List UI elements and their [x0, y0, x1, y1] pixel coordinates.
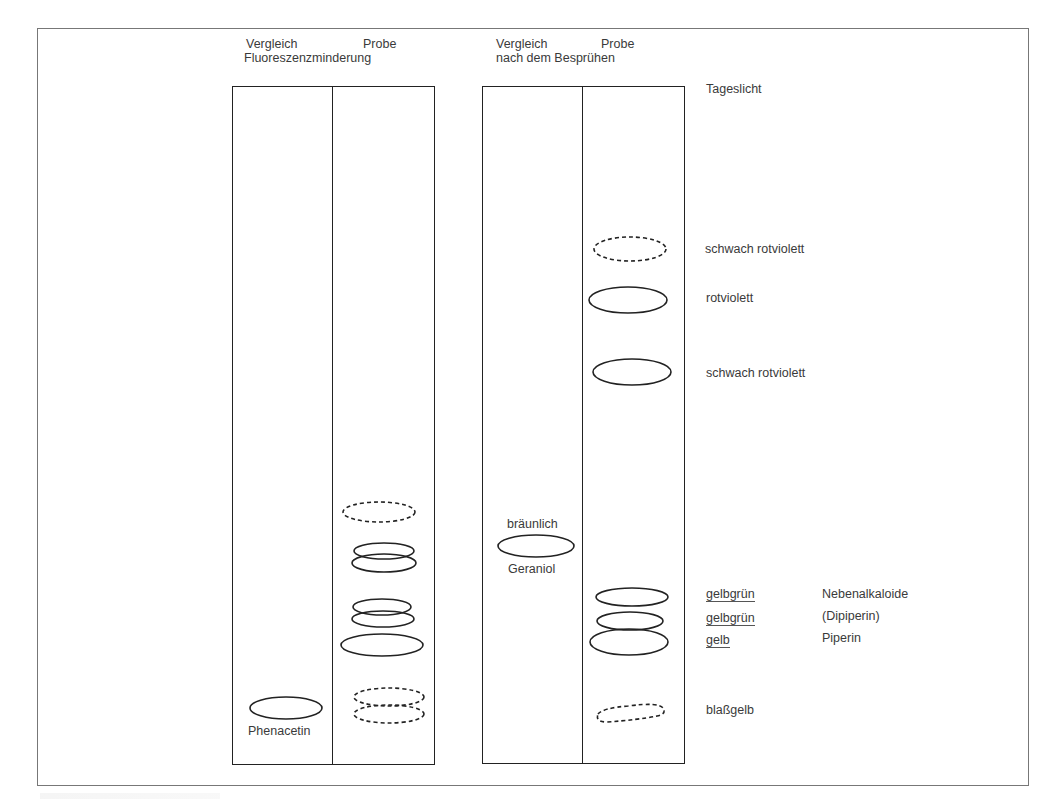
spot-color-label: rotviolett [706, 291, 753, 305]
spot [593, 359, 671, 385]
reference-color-geraniol: bräunlich [507, 517, 558, 531]
spot-color-text: gelbgrün [706, 587, 755, 602]
reference-label-geraniol: Geraniol [508, 562, 555, 576]
spot-dashed [343, 502, 415, 522]
spot-color-text: gelbgrün [706, 611, 755, 626]
spot [596, 588, 668, 606]
spot-color-label: schwach rotviolett [705, 242, 804, 256]
spot [352, 611, 414, 627]
light-condition-label: Tageslicht [706, 82, 762, 96]
spot-phenacetin [250, 697, 322, 719]
spot-color-label-underlined: gelbgrün [706, 611, 755, 625]
compound-label: Nebenalkaloide [822, 587, 908, 601]
spot-color-label-underlined: gelbgrün [706, 587, 755, 601]
spot-color-label: blaßgelb [706, 703, 754, 717]
spot-dashed [354, 688, 424, 706]
spot-dashed [594, 237, 666, 261]
compound-label: (Dipiperin) [822, 609, 880, 623]
spot [589, 287, 667, 313]
spot-color-label-underlined: gelb [706, 633, 730, 647]
spot-dashed [597, 704, 664, 722]
tlc-spots [0, 0, 1061, 808]
spot-color-label: schwach rotviolett [706, 366, 805, 380]
spot-geraniol [498, 535, 574, 557]
spot-dashed [354, 705, 424, 723]
faint-caption [40, 793, 220, 799]
spot-color-text: gelb [706, 633, 730, 648]
spot [590, 629, 668, 655]
reference-label-phenacetin: Phenacetin [248, 724, 311, 738]
spot [352, 554, 416, 572]
spot [341, 634, 423, 656]
spot [597, 612, 663, 630]
compound-label: Piperin [822, 631, 861, 645]
